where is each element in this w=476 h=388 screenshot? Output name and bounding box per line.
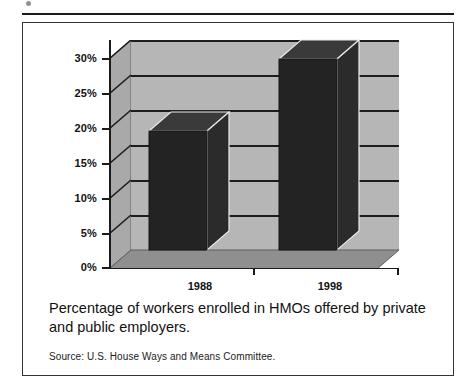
y-axis-label-5: 5% <box>81 227 97 239</box>
figure-frame: 30% 25% 20% 15% 10% 5% 0% 1988 1998 Perc… <box>22 22 454 376</box>
y-axis-line <box>109 40 111 269</box>
figure-source: Source: U.S. House Ways and Means Commit… <box>49 351 433 362</box>
figure-page: 30% 25% 20% 15% 10% 5% 0% 1988 1998 Perc… <box>0 0 476 388</box>
top-rule-divider <box>22 13 454 15</box>
x-axis-label-1988: 1988 <box>145 280 255 292</box>
x-tick-divider <box>253 268 255 275</box>
scan-speck <box>26 1 31 6</box>
bar-1998 <box>279 40 359 269</box>
y-axis-label-30: 30% <box>74 52 97 64</box>
plot-area: 30% 25% 20% 15% 10% 5% 0% 1988 1998 <box>109 40 399 269</box>
y-axis-label-25: 25% <box>74 87 97 99</box>
y-axis-label-0: 0% <box>81 261 97 273</box>
figure-caption: Percentage of workers enrolled in HMOs o… <box>49 299 433 337</box>
y-tick-5 <box>102 233 109 235</box>
bar-chart: 30% 25% 20% 15% 10% 5% 0% 1988 1998 <box>23 23 455 291</box>
y-tick-15 <box>102 163 109 165</box>
y-tick-30 <box>102 58 109 60</box>
y-axis-label-20: 20% <box>74 122 97 134</box>
y-axis-label-10: 10% <box>74 192 97 204</box>
y-axis-label-15: 15% <box>74 157 97 169</box>
y-tick-25 <box>102 93 109 95</box>
bar-1988 <box>149 40 229 269</box>
x-axis-label-1998: 1998 <box>275 280 385 292</box>
y-tick-0 <box>102 267 109 269</box>
x-tick-end <box>397 268 399 275</box>
y-tick-10 <box>102 198 109 200</box>
y-tick-20 <box>102 128 109 130</box>
